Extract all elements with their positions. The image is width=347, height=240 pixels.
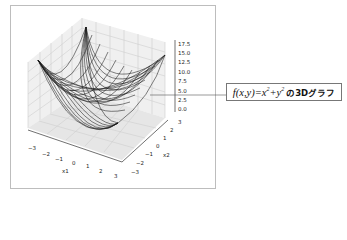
x2-axis-label: x2 xyxy=(163,152,170,158)
formula-callout: f(x,y)=x2+y2の3Dグラフ xyxy=(226,83,342,101)
z-axis-ticks: 17.5 15.0 12.5 10.0 7.5 5.0 2.5 0.0 xyxy=(178,41,191,112)
svg-text:0: 0 xyxy=(72,160,76,166)
svg-text:−3: −3 xyxy=(28,145,37,151)
svg-text:2: 2 xyxy=(99,168,103,174)
svg-text:1: 1 xyxy=(86,163,90,169)
svg-text:0: 0 xyxy=(156,143,160,149)
z-tick-0.0: 0.0 xyxy=(178,106,187,112)
svg-text:−2: −2 xyxy=(42,151,50,157)
svg-text:3: 3 xyxy=(178,119,182,125)
z-tick-15.0: 15.0 xyxy=(178,50,191,56)
z-tick-5.0: 5.0 xyxy=(178,88,187,94)
svg-text:1: 1 xyxy=(163,135,167,141)
x1-axis-label: x1 xyxy=(62,168,69,174)
callout-caption: の3Dグラフ xyxy=(286,86,335,98)
z-tick-12.5: 12.5 xyxy=(178,59,191,65)
z-tick-7.5: 7.5 xyxy=(178,78,187,84)
svg-text:3: 3 xyxy=(114,173,118,179)
svg-text:−3: −3 xyxy=(131,169,140,175)
formula-text: f(x,y)=x2+y2 xyxy=(233,86,284,98)
svg-text:−1: −1 xyxy=(55,156,63,162)
z-tick-2.5: 2.5 xyxy=(178,97,187,103)
svg-text:2: 2 xyxy=(170,127,174,133)
svg-text:−2: −2 xyxy=(136,160,144,166)
z-tick-10.0: 10.0 xyxy=(178,69,191,75)
z-tick-17.5: 17.5 xyxy=(178,41,191,47)
svg-text:−1: −1 xyxy=(145,151,153,157)
